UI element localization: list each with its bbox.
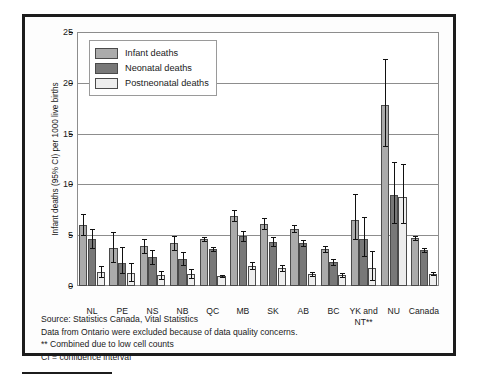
bar-group (230, 32, 256, 286)
confidence-interval-cap (181, 252, 186, 253)
bar (260, 224, 268, 286)
confidence-interval-cap (422, 248, 427, 249)
confidence-interval-cap (280, 271, 285, 272)
confidence-interval-bar (83, 214, 84, 235)
confidence-interval-bar (403, 164, 404, 223)
confidence-interval-cap (250, 269, 255, 270)
confidence-interval-bar (364, 217, 365, 256)
confidence-interval-cap (250, 262, 255, 263)
bar (230, 216, 238, 286)
y-tick-mark (69, 235, 73, 236)
confidence-interval-cap (301, 240, 306, 241)
confidence-interval-cap (422, 252, 427, 253)
legend-item-postneonatal: Postneonatal deaths (95, 76, 209, 90)
confidence-interval-cap (99, 277, 104, 278)
confidence-interval-cap (413, 240, 418, 241)
confidence-interval-cap (383, 59, 388, 60)
confidence-interval-bar (234, 210, 235, 221)
confidence-interval-bar (273, 237, 274, 246)
confidence-interval-bar (385, 59, 386, 145)
confidence-interval-cap (280, 265, 285, 266)
confidence-interval-cap (392, 162, 397, 163)
confidence-interval-cap (401, 164, 406, 165)
confidence-interval-cap (111, 262, 116, 263)
confidence-interval-cap (340, 277, 345, 278)
legend-label-neonatal: Neonatal deaths (125, 63, 192, 73)
y-tick-mark (69, 32, 73, 33)
confidence-interval-cap (362, 217, 367, 218)
legend-label-postneonatal: Postneonatal deaths (125, 78, 209, 88)
note-ci-definition: CI = confidence interval (41, 351, 441, 364)
confidence-interval-cap (189, 269, 194, 270)
confidence-interval-bar (144, 239, 145, 253)
confidence-interval-cap (142, 239, 147, 240)
confidence-interval-cap (241, 241, 246, 242)
confidence-interval-cap (232, 210, 237, 211)
confidence-interval-cap (90, 248, 95, 249)
legend-item-infant: Infant deaths (95, 46, 209, 60)
note-combined-cells: ** Combined due to low cell counts (41, 338, 441, 351)
confidence-interval-bar (152, 250, 153, 263)
bar (290, 229, 298, 286)
bar-group (381, 32, 407, 286)
confidence-interval-cap (292, 232, 297, 233)
confidence-interval-cap (353, 239, 358, 240)
confidence-interval-cap (211, 251, 216, 252)
bar (420, 250, 428, 286)
confidence-interval-cap (81, 214, 86, 215)
confidence-interval-cap (323, 246, 328, 247)
legend-swatch-infant-icon (95, 48, 118, 59)
confidence-interval-cap (172, 250, 177, 251)
bar-group (321, 32, 347, 286)
figure-notes: Source: Statistics Canada, Vital Statist… (41, 313, 441, 363)
confidence-interval-cap (172, 236, 177, 237)
confidence-interval-cap (392, 223, 397, 224)
y-tick-mark (69, 134, 73, 135)
confidence-interval-cap (150, 264, 155, 265)
confidence-interval-bar (243, 231, 244, 241)
confidence-interval-cap (353, 194, 358, 195)
y-tick-mark (69, 286, 73, 287)
y-axis-tick-labels: 0510152025 (45, 32, 73, 286)
confidence-interval-bar (183, 252, 184, 264)
confidence-interval-bar (122, 247, 123, 272)
confidence-interval-cap (262, 229, 267, 230)
confidence-interval-cap (413, 236, 418, 237)
confidence-interval-cap (150, 250, 155, 251)
bar (239, 236, 247, 286)
legend: Infant deaths Neonatal deaths Postneonat… (89, 40, 217, 96)
confidence-interval-cap (292, 225, 297, 226)
bar (269, 242, 277, 286)
confidence-interval-cap (370, 251, 375, 252)
confidence-interval-cap (129, 263, 134, 264)
plot-area: NLPENSNBQCMBSKABBCYK andNT**NUCanada Inf… (77, 32, 439, 286)
confidence-interval-cap (331, 259, 336, 260)
legend-swatch-neonatal-icon (95, 63, 118, 74)
confidence-interval-cap (241, 231, 246, 232)
bar-group (260, 32, 286, 286)
note-ontario-exclusion: Data from Ontario were excluded because … (41, 326, 441, 339)
confidence-interval-cap (111, 232, 116, 233)
legend-label-infant: Infant deaths (125, 48, 178, 58)
confidence-interval-bar (131, 263, 132, 281)
confidence-interval-cap (142, 253, 147, 254)
confidence-interval-cap (211, 247, 216, 248)
confidence-interval-bar (174, 236, 175, 250)
confidence-interval-cap (120, 247, 125, 248)
confidence-interval-cap (181, 265, 186, 266)
confidence-interval-cap (331, 265, 336, 266)
confidence-interval-cap (202, 237, 207, 238)
bar-group (351, 32, 377, 286)
confidence-interval-cap (362, 256, 367, 257)
y-tick-mark (69, 184, 73, 185)
confidence-interval-cap (340, 273, 345, 274)
confidence-interval-cap (383, 146, 388, 147)
confidence-interval-cap (202, 241, 207, 242)
bar-group (290, 32, 316, 286)
confidence-interval-bar (394, 162, 395, 223)
confidence-interval-cap (189, 278, 194, 279)
y-tick-mark (69, 83, 73, 84)
confidence-interval-cap (323, 252, 328, 253)
confidence-interval-bar (191, 269, 192, 279)
bar-group (411, 32, 437, 286)
